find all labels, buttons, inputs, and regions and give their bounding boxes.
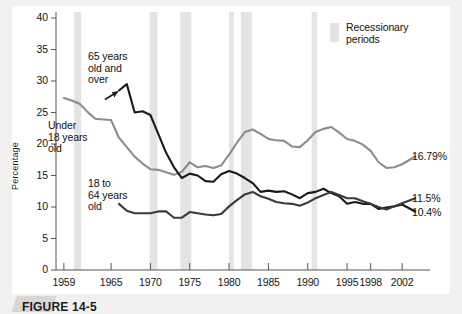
series-line (119, 84, 402, 209)
series-annotation-under-18: Under 18 years old (48, 120, 87, 155)
x-tick-label: 1970 (130, 276, 170, 288)
y-tick-label: 40 (26, 11, 48, 23)
y-tick-label: 30 (26, 74, 48, 86)
recession-band (229, 12, 234, 270)
y-tick-label: 5 (26, 232, 48, 244)
series-annotation-65-and-over: 65 years old and over (88, 51, 127, 86)
x-tick-label: 1959 (44, 276, 84, 288)
y-tick-label: 25 (26, 106, 48, 118)
x-tick-label: 2002 (382, 276, 422, 288)
y-axis-title: Percentage (10, 142, 20, 190)
recession-band (180, 12, 191, 270)
x-tick-label: 1975 (170, 276, 210, 288)
recession-band (241, 12, 252, 270)
leader-lines-group (105, 91, 118, 99)
figure-caption: FIGURE 14-5 (22, 300, 97, 314)
y-tick-label: 35 (26, 43, 48, 55)
end-label-18-to-64: 11.5% (412, 192, 441, 204)
end-label-under-18: 16.79% (412, 150, 447, 162)
series-line (119, 192, 402, 218)
y-tick-label: 10 (26, 200, 48, 212)
y-tick-label: 20 (26, 137, 48, 149)
x-tick-label: 1980 (209, 276, 249, 288)
legend-label: Recessionary periods (346, 22, 408, 46)
series-annotation-18-to-64: 18 to 64 years old (88, 178, 127, 213)
x-tick-label: 1990 (288, 276, 328, 288)
end-label-65-and-over: 10.4% (412, 206, 441, 218)
recession-band (150, 12, 158, 270)
y-tick-label: 15 (26, 169, 48, 181)
recession-band (312, 12, 318, 270)
x-tick-label: 1965 (91, 276, 131, 288)
legend-swatch-recession (330, 23, 339, 42)
y-tick-label: 0 (26, 263, 48, 275)
legend: Recessionary periods (330, 22, 408, 46)
figure-container: Percentage 0510152025303540 195919651970… (0, 0, 462, 314)
x-tick-label: 1985 (248, 276, 288, 288)
